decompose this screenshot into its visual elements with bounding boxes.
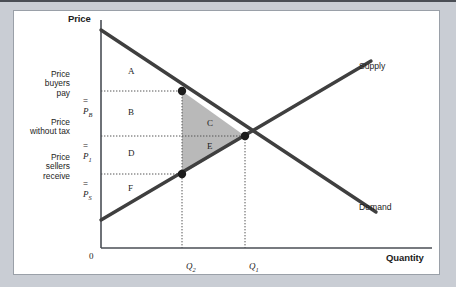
region-label-f: F — [128, 183, 133, 193]
demand-curve-label: Demand — [359, 203, 391, 213]
price-buyers-pay-symbol: = PB — [74, 85, 92, 128]
quantity-symbol-subscript: 2 — [193, 266, 196, 273]
price-symbol-subscript: 1 — [89, 156, 92, 163]
origin-label: 0 — [89, 251, 94, 261]
region-label-e: E — [207, 141, 213, 151]
quantity-tick-q2: Q2 — [177, 251, 196, 283]
region-label-a: A — [128, 66, 135, 76]
point-price-sellers-receive — [178, 170, 186, 178]
equals-sign: = — [83, 178, 88, 188]
quantity-axis-title: Quantity — [386, 253, 424, 264]
region-label-c: C — [207, 118, 213, 128]
price-symbol-subscript: S — [89, 194, 92, 201]
point-equilibrium — [241, 132, 249, 140]
quantity-tick-q1: Q1 — [240, 251, 259, 283]
equals-sign: = — [83, 140, 88, 150]
point-price-buyers-pay — [178, 87, 186, 95]
equals-sign: = — [83, 95, 88, 105]
price-buyers-pay-description: Price buyers pay — [16, 70, 70, 98]
price-without-tax-description: Price without tax — [10, 118, 70, 137]
price-sellers-receive-symbol: = PS — [74, 168, 92, 211]
supply-demand-plot — [0, 0, 456, 287]
quantity-symbol-subscript: 1 — [256, 266, 259, 273]
demand-curve — [101, 30, 376, 212]
price-symbol-subscript: B — [89, 111, 93, 118]
price-without-tax-symbol: = P1 — [74, 130, 92, 173]
region-label-d: D — [128, 148, 135, 158]
supply-curve — [101, 61, 371, 220]
price-axis-title: Price — [68, 14, 91, 25]
price-sellers-receive-description: Price sellers receive — [16, 153, 70, 181]
supply-curve-label: Supply — [359, 62, 385, 72]
region-label-b: B — [128, 107, 134, 117]
figure-root: Price Quantity Supply Demand Price buyer… — [0, 0, 456, 287]
